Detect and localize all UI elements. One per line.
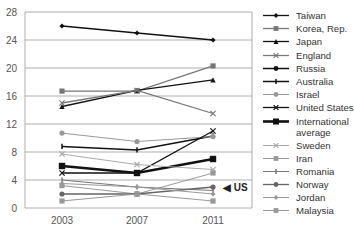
series-malaysia [59, 191, 215, 203]
legend-swatch-icon [262, 192, 290, 203]
svg-text:4: 4 [11, 175, 17, 186]
legend-label: Taiwan [296, 10, 326, 21]
legend-item: Sweden [262, 140, 354, 153]
legend-label: International average [296, 116, 354, 138]
legend-label: United States [296, 102, 354, 113]
legend-label: England [296, 50, 331, 61]
legend-item: Russia [262, 63, 354, 76]
x-axis-ticks: 200320072011 [51, 215, 224, 226]
svg-text:16: 16 [6, 91, 18, 102]
svg-text:20: 20 [6, 63, 18, 74]
legend-item: Japan [262, 36, 354, 49]
svg-text:8: 8 [11, 147, 17, 158]
legend-label: Australia [296, 76, 333, 87]
legend-item: United States [262, 102, 354, 115]
legend-item: Australia [262, 76, 354, 89]
legend-item: Iran [262, 153, 354, 166]
series-lines [59, 23, 216, 203]
legend-swatch-icon [262, 179, 290, 190]
legend-item: England [262, 50, 354, 63]
svg-text:12: 12 [6, 119, 18, 130]
legend-swatch-icon [262, 36, 290, 47]
legend-label: Israel [296, 89, 319, 100]
legend-swatch-icon [262, 153, 290, 164]
legend-item: Romania [262, 166, 354, 179]
svg-text:24: 24 [6, 35, 18, 46]
legend-label: Romania [296, 166, 334, 177]
legend-swatch-icon [262, 63, 290, 74]
legend-swatch-icon [262, 23, 290, 34]
legend-label: Russia [296, 63, 325, 74]
legend-label: Jordan [296, 192, 325, 203]
legend-label: Malaysia [296, 205, 334, 216]
legend-swatch-icon [262, 140, 290, 151]
legend-item: Malaysia [262, 205, 354, 218]
svg-text:2007: 2007 [126, 215, 149, 226]
legend: TaiwanKorea, Rep.JapanEnglandRussiaAustr… [262, 10, 354, 219]
svg-text:28: 28 [6, 7, 18, 18]
legend-label: Iran [296, 153, 313, 164]
gridlines [25, 12, 252, 208]
legend-label: Korea, Rep. [296, 23, 347, 34]
legend-swatch-icon [262, 10, 290, 21]
legend-item: Jordan [262, 192, 354, 205]
svg-text:2003: 2003 [51, 215, 74, 226]
legend-label: Sweden [296, 140, 331, 151]
legend-item: Taiwan [262, 10, 354, 23]
legend-swatch-icon [262, 76, 290, 87]
legend-item: Norway [262, 179, 354, 192]
legend-label: Norway [296, 179, 329, 190]
legend-label: Japan [296, 36, 322, 47]
legend-swatch-icon [262, 102, 290, 113]
y-axis-ticks: 0481216202428 [6, 7, 18, 214]
svg-text:0: 0 [11, 203, 17, 214]
legend-swatch-icon [262, 50, 290, 61]
legend-swatch-icon [262, 166, 290, 177]
legend-swatch-icon [262, 116, 290, 127]
legend-item: International average [262, 116, 354, 140]
legend-item: Israel [262, 89, 354, 102]
legend-swatch-icon [262, 205, 290, 216]
legend-item: Korea, Rep. [262, 23, 354, 36]
line-chart: 0481216202428 200320072011 [0, 0, 260, 232]
svg-text:2011: 2011 [202, 215, 224, 226]
us-annotation: ◀ US [223, 182, 248, 193]
legend-swatch-icon [262, 89, 290, 100]
